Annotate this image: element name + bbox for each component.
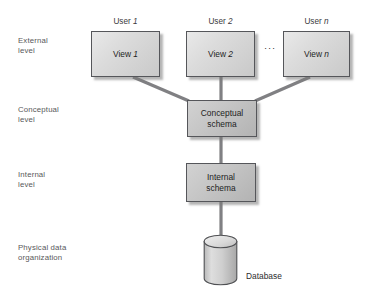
- view-box-1-index: 1: [133, 49, 138, 59]
- level-label-external: External level: [18, 36, 48, 56]
- conceptual-schema-box[interactable]: Conceptual schema: [187, 100, 257, 137]
- connector-view1-conceptual: [133, 77, 189, 101]
- user-label-n: User n: [283, 17, 350, 27]
- level-label-internal: Internal level: [18, 170, 45, 190]
- view-box-n-prefix: View: [304, 49, 324, 59]
- internal-schema-label: Internal schema: [206, 172, 235, 193]
- user-label-1-prefix: User: [113, 17, 133, 26]
- view-box-n[interactable]: View n: [283, 31, 350, 77]
- user-label-2-prefix: User: [208, 17, 228, 26]
- conceptual-schema-label: Conceptual schema: [201, 108, 243, 129]
- view-box-1-label: View 1: [113, 49, 138, 60]
- user-label-1: User 1: [91, 17, 160, 27]
- user-label-n-index: n: [324, 17, 329, 26]
- view-box-2-index: 2: [228, 49, 233, 59]
- user-label-2-index: 2: [228, 17, 233, 26]
- view-box-1[interactable]: View 1: [91, 31, 160, 77]
- view-box-2-prefix: View: [208, 49, 228, 59]
- view-box-2-label: View 2: [208, 49, 233, 60]
- view-box-n-label: View n: [304, 49, 329, 60]
- database-cylinder-icon[interactable]: [203, 234, 238, 286]
- user-label-n-prefix: User: [304, 17, 324, 26]
- view-box-1-prefix: View: [113, 49, 133, 59]
- user-label-2: User 2: [186, 17, 255, 27]
- view-box-2[interactable]: View 2: [186, 31, 255, 77]
- connector-viewn-conceptual: [255, 77, 310, 101]
- user-label-1-index: 1: [133, 17, 138, 26]
- database-label: Database: [246, 271, 282, 281]
- diagram-canvas: External level Conceptual level Internal…: [0, 0, 368, 303]
- view-box-n-index: n: [324, 49, 329, 59]
- internal-schema-box[interactable]: Internal schema: [186, 163, 256, 202]
- level-label-conceptual: Conceptual level: [18, 105, 59, 125]
- ellipsis-separator: ···: [259, 42, 281, 53]
- level-label-physical: Physical data organization: [18, 243, 66, 263]
